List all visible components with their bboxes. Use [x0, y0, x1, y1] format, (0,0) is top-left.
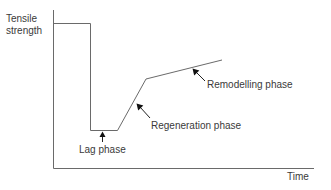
remodelling-phase-label: Remodelling phase	[207, 79, 293, 90]
y-axis-label-line2: strength	[6, 25, 42, 36]
lag-phase-arrow	[100, 132, 106, 143]
arrowhead-icon	[100, 132, 106, 138]
regeneration-phase-arrow	[137, 104, 151, 119]
x-axis-label: Time	[287, 171, 309, 182]
lag-phase-label: Lag phase	[79, 144, 126, 155]
strength-curve	[54, 24, 223, 131]
y-axis-label-line1: Tensile	[6, 13, 38, 24]
tensile-strength-diagram: Tensile strength Time Lag phase Regenera…	[0, 0, 331, 190]
regeneration-phase-label: Regeneration phase	[151, 120, 242, 131]
remodelling-phase-arrow	[193, 69, 206, 82]
